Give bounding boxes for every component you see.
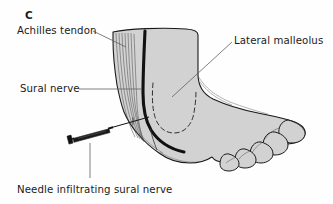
label-needle-infiltrating-sural-nerve: Needle infiltrating sural nerve: [17, 184, 172, 196]
panel-letter: C: [25, 9, 33, 21]
needle-hub: [108, 127, 113, 128]
label-lateral-malleolus: Lateral malleolus: [234, 35, 323, 47]
label-sural-nerve: Sural nerve: [20, 83, 80, 95]
syringe-plunger-flange: [67, 135, 73, 144]
sural-nerve-block-figure: C Achilles tendon Lateral malleolus Sura…: [0, 0, 333, 204]
syringe-barrel: [73, 129, 110, 143]
label-achilles-tendon: Achilles tendon: [17, 25, 97, 37]
